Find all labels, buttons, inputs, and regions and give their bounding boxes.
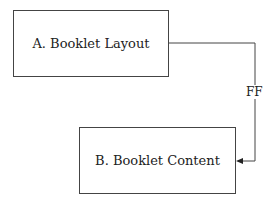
edge-label: FF [245, 85, 264, 99]
node-label: B. Booklet Content [95, 153, 220, 168]
node-booklet-layout[interactable]: A. Booklet Layout [13, 10, 169, 77]
node-booklet-content[interactable]: B. Booklet Content [79, 127, 236, 194]
node-label: A. Booklet Layout [32, 36, 149, 51]
arrowhead-icon [236, 158, 243, 164]
